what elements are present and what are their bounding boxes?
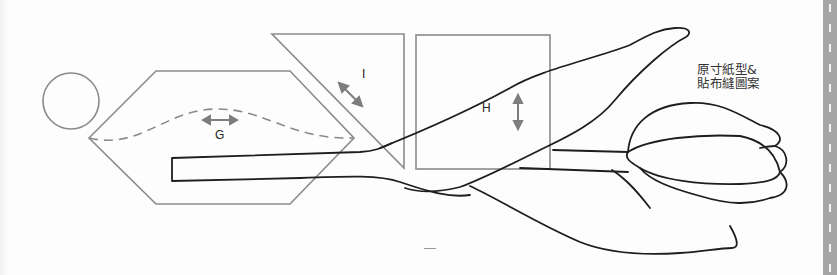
caption-line-2: 貼布縫圖案 (697, 77, 760, 91)
cut-dash (829, 24, 831, 32)
cut-dash (829, 64, 831, 72)
cut-dash (829, 104, 831, 112)
cut-dash (829, 144, 831, 152)
cut-dash (829, 244, 831, 252)
cut-dash (829, 124, 831, 132)
cut-dash (829, 184, 831, 192)
pattern-page: G I H 原寸紙型& 貼布縫圖案 (0, 0, 837, 275)
cut-dash (829, 204, 831, 212)
tulip-upper-leaf (380, 28, 689, 191)
tulip-bud-petal-lower (640, 168, 780, 184)
small-dash-mark (424, 248, 436, 249)
circle-piece (43, 73, 99, 129)
cut-dash (829, 84, 831, 92)
piece-label-g: G (215, 129, 224, 141)
caption-line-1: 原寸紙型& (697, 63, 760, 77)
page-caption: 原寸紙型& 貼布縫圖案 (697, 63, 760, 91)
piece-label-h: H (482, 102, 491, 114)
piece-label-i: I (362, 68, 365, 80)
tulip-bud-outer (627, 103, 787, 203)
tulip-bud-petal-middle (628, 136, 780, 172)
cut-dash (829, 164, 831, 172)
cut-dash (829, 224, 831, 232)
cut-dash (829, 4, 831, 12)
pattern-drawing (0, 0, 837, 275)
tulip-bud-petal-line (760, 146, 775, 148)
side-cut-strip (823, 0, 837, 275)
triangle-piece-i (272, 34, 404, 168)
cut-dash (829, 264, 831, 272)
tulip-stem (172, 143, 628, 196)
cut-dash (829, 44, 831, 52)
